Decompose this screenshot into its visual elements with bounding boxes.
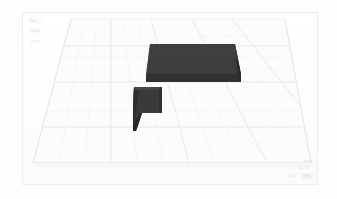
plate-front-face [146,74,241,82]
axis-indicator-label: Z [30,43,32,47]
status-overlay: Ready 100% mm [287,159,313,181]
model-rectangular-plate[interactable] [146,42,241,89]
viewport-frame: Part Object Layers Z 80 x 40 Ready 100% … [22,12,318,185]
status-unit-chip: mm [302,173,313,179]
model-concave-fillet-wedge[interactable] [132,85,170,133]
3d-scene-viewport[interactable]: Part Object Layers Z 80 x 40 Ready 100% … [23,13,317,184]
application-window: Part Object Layers Z 80 x 40 Ready 100% … [0,0,337,199]
sidebar-overlay-labels: Part Object Layers [28,18,42,44]
build-plate[interactable] [23,13,318,185]
fillet-top-face [134,87,162,90]
status-zoom-level: 100% [287,174,296,178]
fillet-right-face [159,87,162,113]
sidebar-item-part[interactable]: Part [28,18,42,24]
sidebar-item-object[interactable]: Object [28,28,42,34]
